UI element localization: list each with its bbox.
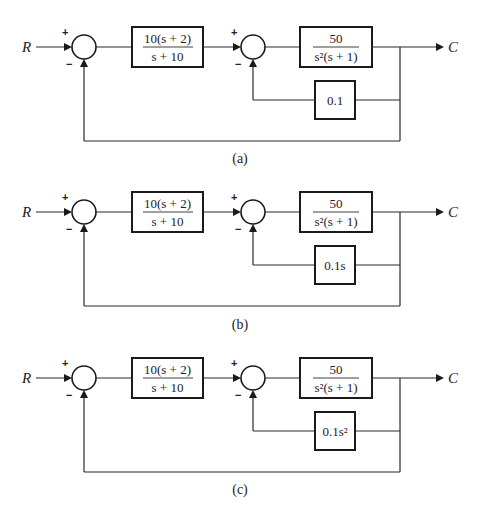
input-label: R — [21, 39, 31, 55]
sum2-plus-sign: + — [231, 26, 237, 38]
output-label: C — [448, 204, 459, 220]
sum2-minus-sign: − — [235, 223, 241, 235]
caption: (a) — [232, 151, 248, 167]
sum2-minus-sign: − — [235, 389, 241, 401]
block1-denominator: s + 10 — [152, 214, 184, 229]
output-label: C — [448, 39, 459, 55]
sum2-minus-sign: − — [235, 58, 241, 70]
block1-denominator: s + 10 — [152, 49, 184, 64]
block2-denominator: s²(s + 1) — [314, 49, 357, 64]
block1-numerator: 10(s + 2) — [144, 362, 191, 377]
diagram-b — [36, 192, 444, 306]
block1-numerator: 10(s + 2) — [144, 196, 191, 211]
diagram-c — [36, 358, 444, 472]
sum1-minus-sign: − — [66, 389, 72, 401]
block2-denominator: s²(s + 1) — [314, 214, 357, 229]
block2-numerator: 50 — [330, 362, 343, 377]
block-diagram-figure: R C + − + − 10(s + 2) s + 10 50 s²(s + 1… — [0, 0, 478, 508]
sum1-minus-sign: − — [66, 223, 72, 235]
block2-numerator: 50 — [330, 196, 343, 211]
caption: (b) — [232, 317, 249, 333]
feedback-block-gain: 0.1 — [327, 93, 343, 108]
block1-denominator: s + 10 — [152, 380, 184, 395]
block2-numerator: 50 — [330, 31, 343, 46]
sum1-plus-sign: + — [62, 357, 68, 369]
output-label: C — [448, 370, 459, 386]
caption: (c) — [232, 482, 248, 498]
feedback-block-gain: 0.1s² — [322, 424, 347, 439]
block2-denominator: s²(s + 1) — [314, 380, 357, 395]
input-label: R — [21, 370, 31, 386]
sum2-plus-sign: + — [231, 357, 237, 369]
sum2-plus-sign: + — [231, 191, 237, 203]
diagram-a — [36, 27, 444, 141]
sum1-plus-sign: + — [62, 26, 68, 38]
sum1-plus-sign: + — [62, 191, 68, 203]
sum1-minus-sign: − — [66, 58, 72, 70]
feedback-block-gain: 0.1s — [324, 258, 345, 273]
block1-numerator: 10(s + 2) — [144, 31, 191, 46]
input-label: R — [21, 204, 31, 220]
